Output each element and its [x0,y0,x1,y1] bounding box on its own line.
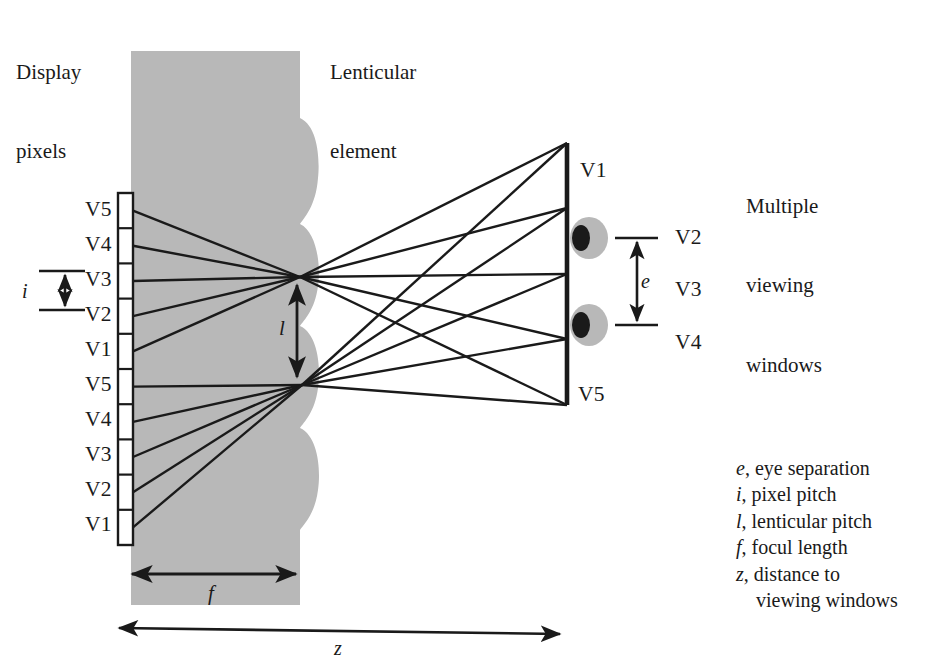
dimension-label-f: f [208,580,214,606]
legend-item-z: z, distance to [736,561,898,587]
viewing-windows-label-line2: viewing [746,272,822,298]
window-label-v4: V4 [675,329,702,356]
display-pixels-label-line2: pixels [16,138,81,164]
legend-item-l: l, lenticular pitch [736,508,898,534]
legend-sep-z: , [744,563,754,585]
window-label-v2: V2 [675,224,702,251]
lenticular-element-label: Lenticular element [330,6,416,218]
display-pixel-strip [118,193,133,545]
pixel-label-4: V2 [85,301,112,328]
pixel-label-5: V1 [85,336,112,363]
dimension-i [39,271,85,310]
window-label-v3: V3 [675,276,702,303]
dimension-z [119,628,560,634]
legend-sep-f: , [742,536,752,558]
legend-sep-l: , [742,510,752,532]
pixel-label-6: V5 [85,371,112,398]
eye-pair [570,217,608,346]
legend-item-i: i, pixel pitch [736,481,898,507]
pixel-label-2: V4 [85,231,112,258]
eye-lower [570,304,608,346]
window-bar-bottom-label: V5 [578,381,605,408]
lenticular-element-label-line1: Lenticular [330,59,416,85]
legend-text-f: focul length [752,536,848,558]
viewing-windows-label-line1: Multiple [746,193,822,219]
pixel-label-9: V2 [85,476,112,503]
legend-text-l: lenticular pitch [752,510,873,532]
dimension-e [615,238,658,325]
figure-canvas: Display pixels Lenticular element Multip… [0,0,930,671]
legend: e, eye separation i, pixel pitch l, lent… [736,455,898,613]
legend-sep-e: , [745,457,755,479]
legend-symbol-e: e [736,457,745,479]
window-bar-top-label: V1 [580,157,607,184]
dimension-label-z: z [334,636,342,661]
legend-symbol-z: z [736,563,744,585]
display-pixels-label: Display pixels [16,6,81,218]
legend-text-i: pixel pitch [752,483,837,505]
pixel-label-3: V3 [85,266,112,293]
pixel-label-10: V1 [85,511,112,538]
dimension-label-i: i [22,279,28,304]
pixel-label-7: V4 [85,406,112,433]
viewing-windows-label: Multiple viewing windows [746,140,822,431]
pixel-label-8: V3 [85,441,112,468]
pixel-label-1: V5 [85,196,112,223]
lenticular-element-label-line2: element [330,138,416,164]
legend-item-f: f, focul length [736,534,898,560]
legend-text-e: eye separation [755,457,870,479]
legend-sep-i: , [742,483,752,505]
lenticular-element-shape [131,51,319,605]
eye-upper [570,217,608,259]
viewing-windows-label-line3: windows [746,352,822,378]
display-pixels-label-line1: Display [16,59,81,85]
dimension-label-l: l [279,315,285,341]
dimension-label-e: e [641,269,650,294]
legend-item-z-continuation: viewing windows [736,587,898,613]
legend-item-e: e, eye separation [736,455,898,481]
legend-text-z: distance to [754,563,840,585]
